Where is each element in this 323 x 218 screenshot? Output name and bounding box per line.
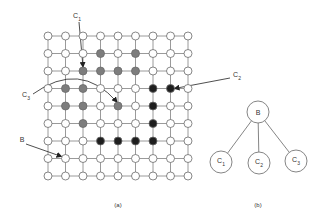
grid-node bbox=[44, 32, 52, 40]
grid-node bbox=[184, 85, 192, 93]
grid-node bbox=[184, 50, 192, 58]
grid-node bbox=[97, 172, 105, 180]
grid-node bbox=[149, 67, 157, 75]
tree-child-c3-label: C3 bbox=[292, 156, 300, 165]
grid-node-gray bbox=[132, 67, 140, 75]
grid-node bbox=[132, 172, 140, 180]
grid-node bbox=[167, 155, 175, 163]
grid-node bbox=[44, 120, 52, 128]
label-c2: C2 bbox=[233, 71, 241, 80]
grid-node bbox=[132, 120, 140, 128]
grid-node bbox=[62, 155, 70, 163]
grid-node bbox=[114, 172, 122, 180]
grid-node bbox=[44, 172, 52, 180]
tree-child-c2-label: C2 bbox=[255, 158, 263, 167]
grid-node bbox=[44, 102, 52, 110]
grid-node bbox=[167, 172, 175, 180]
grid-node bbox=[97, 155, 105, 163]
grid-node bbox=[149, 50, 157, 58]
grid-node-dark bbox=[149, 85, 157, 93]
grid-node bbox=[79, 50, 87, 58]
grid-node bbox=[114, 85, 122, 93]
grid-node bbox=[184, 172, 192, 180]
grid-node bbox=[79, 32, 87, 40]
grid-node-dark bbox=[149, 137, 157, 145]
grid-node bbox=[167, 120, 175, 128]
grid-node-gray bbox=[62, 85, 70, 93]
grid-node-dark bbox=[149, 120, 157, 128]
grid-node-gray bbox=[132, 50, 140, 58]
grid-node bbox=[167, 32, 175, 40]
tree-root-label: B bbox=[256, 109, 261, 116]
tree-child-c1-label: C1 bbox=[217, 157, 225, 166]
grid-node bbox=[132, 102, 140, 110]
grid-node bbox=[62, 120, 70, 128]
grid-node bbox=[79, 137, 87, 145]
grid-node bbox=[79, 172, 87, 180]
grid-nodes bbox=[44, 32, 192, 180]
grid-node bbox=[62, 67, 70, 75]
tree-edge bbox=[258, 123, 259, 152]
label-b: B bbox=[20, 136, 25, 143]
grid-node bbox=[184, 102, 192, 110]
grid-node bbox=[62, 172, 70, 180]
grid-node bbox=[184, 32, 192, 40]
grid-node-gray bbox=[79, 120, 87, 128]
grid-node-dark bbox=[97, 137, 105, 145]
grid-node bbox=[44, 85, 52, 93]
grid-node bbox=[62, 137, 70, 145]
grid-node bbox=[97, 102, 105, 110]
grid-node-dark bbox=[132, 137, 140, 145]
grid-node bbox=[62, 50, 70, 58]
grid-node-gray bbox=[97, 67, 105, 75]
grid-node bbox=[44, 137, 52, 145]
tree-edge bbox=[265, 121, 290, 153]
grid-node-gray bbox=[114, 67, 122, 75]
grid-node-dark bbox=[167, 85, 175, 93]
grid-node bbox=[167, 102, 175, 110]
grid-node bbox=[184, 67, 192, 75]
arrow-b bbox=[26, 144, 62, 157]
grid-node-gray bbox=[79, 102, 87, 110]
diagram-canvas bbox=[0, 0, 323, 218]
arrow-c1 bbox=[79, 22, 83, 67]
grid-node-dark bbox=[149, 102, 157, 110]
grid-node bbox=[97, 85, 105, 93]
grid-node bbox=[132, 85, 140, 93]
grid-node bbox=[132, 32, 140, 40]
label-c1: C1 bbox=[73, 12, 81, 21]
grid-node bbox=[97, 32, 105, 40]
grid-node bbox=[114, 32, 122, 40]
grid-node bbox=[149, 155, 157, 163]
grid-node bbox=[132, 155, 140, 163]
grid-node bbox=[167, 137, 175, 145]
grid-node bbox=[167, 50, 175, 58]
grid-node-dark bbox=[114, 137, 122, 145]
grid-node-gray bbox=[79, 85, 87, 93]
caption-b: (b) bbox=[254, 202, 261, 208]
grid-node bbox=[62, 32, 70, 40]
grid-node bbox=[184, 137, 192, 145]
arrow-c2 bbox=[175, 78, 231, 89]
grid-node bbox=[44, 67, 52, 75]
grid-node bbox=[167, 67, 175, 75]
grid-node bbox=[97, 120, 105, 128]
grid-node bbox=[44, 155, 52, 163]
grid-node bbox=[149, 172, 157, 180]
grid-node bbox=[149, 32, 157, 40]
grid-node bbox=[79, 155, 87, 163]
grid-node bbox=[44, 50, 52, 58]
grid-node bbox=[114, 155, 122, 163]
caption-a: (a) bbox=[114, 202, 121, 208]
grid-node-gray bbox=[97, 50, 105, 58]
tree-edge bbox=[228, 121, 252, 153]
label-c3: C3 bbox=[22, 91, 30, 100]
grid-node-gray bbox=[114, 102, 122, 110]
grid-node bbox=[184, 120, 192, 128]
grid-node-gray bbox=[62, 102, 70, 110]
annotation-arrows bbox=[26, 22, 230, 157]
grid-node bbox=[114, 50, 122, 58]
grid-node bbox=[184, 155, 192, 163]
grid-node-gray bbox=[79, 67, 87, 75]
grid-node bbox=[114, 120, 122, 128]
